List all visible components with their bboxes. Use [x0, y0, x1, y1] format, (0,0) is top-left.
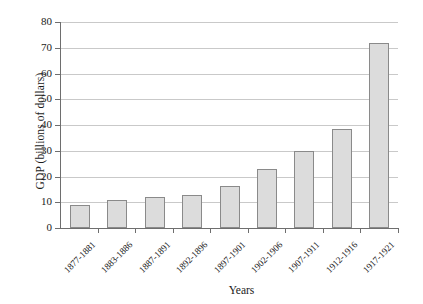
bar — [369, 43, 389, 228]
bar — [145, 197, 165, 228]
y-axis-tick — [55, 202, 61, 203]
y-axis-tick — [55, 177, 61, 178]
y-axis-tick-labels: 01020304050607080 — [24, 0, 52, 304]
y-axis-tick — [55, 228, 61, 229]
y-axis-tick — [55, 74, 61, 75]
bar — [294, 151, 314, 228]
bar — [257, 169, 277, 228]
x-axis-tick — [360, 228, 361, 233]
x-axis-baseline — [61, 228, 398, 229]
y-axis-tick — [55, 151, 61, 152]
x-axis-title: Years — [0, 284, 423, 296]
gdp-bar-chart: GDP (billions of dollars) 01020304050607… — [0, 0, 423, 304]
bar — [220, 186, 240, 228]
gridline — [61, 22, 398, 23]
y-axis-tick-label: 70 — [28, 42, 52, 53]
x-axis-title-text: Years — [229, 284, 255, 296]
bar — [182, 195, 202, 228]
bar — [332, 129, 352, 228]
y-axis-tick-label: 80 — [28, 16, 52, 27]
x-axis-tick — [323, 228, 324, 233]
x-axis-tick — [173, 228, 174, 233]
y-axis-tick-label: 0 — [28, 222, 52, 233]
x-axis-tick — [135, 228, 136, 233]
y-axis-tick-label: 30 — [28, 145, 52, 156]
bar — [70, 205, 90, 228]
x-axis-tick — [98, 228, 99, 233]
y-axis-tick-label: 60 — [28, 68, 52, 79]
plot-area — [61, 22, 398, 228]
gridline — [61, 99, 398, 100]
bar — [107, 200, 127, 228]
y-axis-tick — [55, 99, 61, 100]
x-axis-tick — [248, 228, 249, 233]
x-axis-tick — [210, 228, 211, 233]
y-axis-tick-label: 10 — [28, 196, 52, 207]
gridline — [61, 48, 398, 49]
y-axis-tick-label: 40 — [28, 119, 52, 130]
y-axis-tick — [55, 22, 61, 23]
y-axis-tick-label: 50 — [28, 93, 52, 104]
x-axis-tick — [398, 228, 399, 233]
gridline — [61, 74, 398, 75]
x-axis-tick — [285, 228, 286, 233]
gridline — [61, 125, 398, 126]
y-axis-tick — [55, 48, 61, 49]
y-axis-tick-label: 20 — [28, 171, 52, 182]
y-axis-tick — [55, 125, 61, 126]
